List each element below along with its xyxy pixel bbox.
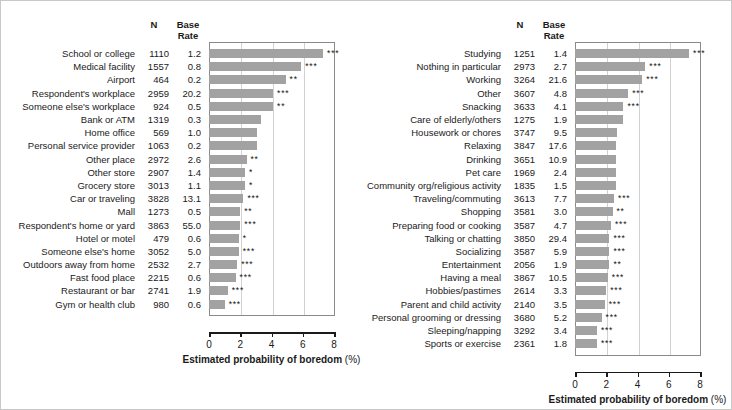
x-axis-tick-label: 4 xyxy=(260,339,284,350)
category-label: Home office xyxy=(1,127,135,138)
category-label: Respondent's workplace xyxy=(1,88,135,99)
base-rate-value: 2.4 xyxy=(537,167,567,178)
bar-row: Respondent's workplace295920.2*** xyxy=(1,87,367,100)
bar-row: Grocery store30131.1* xyxy=(1,179,367,192)
significance-marker: *** xyxy=(693,48,705,59)
bar-zone: ** xyxy=(209,73,367,86)
category-label: Outdoors away from home xyxy=(1,259,135,270)
bar xyxy=(575,102,623,111)
base-rate-value: 5.2 xyxy=(537,312,567,323)
bar xyxy=(209,102,273,111)
bar-row: Relaxing384717.6 xyxy=(367,139,732,152)
sample-size-value: 479 xyxy=(137,233,169,244)
bar xyxy=(209,194,243,203)
bar xyxy=(209,273,236,282)
x-axis-tick xyxy=(700,372,702,377)
x-axis-title-unit: (%) xyxy=(345,354,361,365)
bar-zone: ** xyxy=(209,153,367,166)
sample-size-value: 1319 xyxy=(137,114,169,125)
significance-marker: *** xyxy=(247,193,259,204)
bar xyxy=(209,234,239,243)
x-axis-tick xyxy=(303,332,305,337)
chart-panel-right: N Base Rate Studying12511.4***Nothing in… xyxy=(367,1,732,410)
bar-zone: *** xyxy=(209,87,367,100)
x-axis-title-text: Estimated probability of boredom xyxy=(183,354,345,365)
bar-row: Other36074.8*** xyxy=(367,87,732,100)
bar-row: Personal grooming or dressing36805.2*** xyxy=(367,311,732,324)
base-rate-value: 1.9 xyxy=(171,285,201,296)
bar xyxy=(575,313,602,322)
x-axis-title-right: Estimated probability of boredom (%) xyxy=(455,394,732,405)
base-rate-value: 4.1 xyxy=(537,101,567,112)
bar-row: Outdoors away from home25322.7*** xyxy=(1,258,367,271)
bar xyxy=(575,89,628,98)
base-rate-value: 0.6 xyxy=(171,233,201,244)
x-axis-tick-label: 0 xyxy=(197,339,221,350)
bar-zone xyxy=(575,179,732,192)
bar xyxy=(209,168,245,177)
sample-size-value: 3581 xyxy=(503,206,535,217)
bar xyxy=(209,247,239,256)
base-rate-value: 0.8 xyxy=(171,61,201,72)
bar-zone: *** xyxy=(209,192,367,205)
x-axis-tick xyxy=(669,372,671,377)
category-label: Personal grooming or dressing xyxy=(367,312,501,323)
sample-size-value: 3292 xyxy=(503,325,535,336)
bar-row: Preparing food or cooking35874.7*** xyxy=(367,218,732,231)
bar xyxy=(575,181,616,190)
bar-row: Working326421.6*** xyxy=(367,73,732,86)
bar-zone: *** xyxy=(575,100,732,113)
bar-row: Someone else's workplace9240.5** xyxy=(1,100,367,113)
bar-row: Respondent's home or yard386355.0*** xyxy=(1,218,367,231)
base-rate-value: 1.2 xyxy=(171,48,201,59)
category-label: Other xyxy=(367,88,501,99)
bar-zone xyxy=(575,139,732,152)
base-rate-value: 0.5 xyxy=(171,206,201,217)
sample-size-value: 3680 xyxy=(503,312,535,323)
category-label: Hobbies/pastimes xyxy=(367,285,501,296)
significance-marker: ** xyxy=(290,74,298,85)
significance-marker: *** xyxy=(612,272,624,283)
sample-size-value: 1273 xyxy=(137,206,169,217)
bar-row: Airport4640.2** xyxy=(1,73,367,86)
category-label: Studying xyxy=(367,48,501,59)
sample-size-value: 1251 xyxy=(503,48,535,59)
bar-row: Studying12511.4*** xyxy=(367,47,732,60)
sample-size-value: 2140 xyxy=(503,299,535,310)
sample-size-value: 3013 xyxy=(137,180,169,191)
bar-zone: *** xyxy=(575,311,732,324)
bar-row: Shopping35813.0** xyxy=(367,205,732,218)
bar xyxy=(209,115,261,124)
base-rate-value: 3.5 xyxy=(537,299,567,310)
x-axis-tick-label: 6 xyxy=(657,379,681,390)
sample-size-value: 3587 xyxy=(503,220,535,231)
bar xyxy=(575,286,606,295)
sample-size-value: 2741 xyxy=(137,285,169,296)
bar-zone xyxy=(575,126,732,139)
significance-marker: *** xyxy=(241,259,253,270)
base-rate-value: 0.3 xyxy=(171,114,201,125)
category-label: Grocery store xyxy=(1,180,135,191)
bar-row: Car or traveling382813.1*** xyxy=(1,192,367,205)
sample-size-value: 980 xyxy=(137,299,169,310)
sample-size-value: 2532 xyxy=(137,259,169,270)
category-label: Hotel or motel xyxy=(1,233,135,244)
bar-zone xyxy=(209,126,367,139)
bar-zone: *** xyxy=(575,271,732,284)
bar-zone: *** xyxy=(575,192,732,205)
bar xyxy=(575,273,608,282)
category-label: Someone else's workplace xyxy=(1,101,135,112)
base-rate-value: 2.7 xyxy=(171,259,201,270)
bar xyxy=(575,155,616,164)
x-axis-tick-label: 6 xyxy=(291,339,315,350)
significance-marker: ** xyxy=(244,206,252,217)
sample-size-value: 2056 xyxy=(503,259,535,270)
x-axis-tick xyxy=(240,332,242,337)
sample-size-value: 3863 xyxy=(137,220,169,231)
category-label: Talking or chatting xyxy=(367,233,501,244)
category-label: Restaurant or bar xyxy=(1,285,135,296)
bar-zone xyxy=(575,153,732,166)
base-rate-value: 21.6 xyxy=(537,74,567,85)
sample-size-value: 2614 xyxy=(503,285,535,296)
bar-zone: *** xyxy=(209,60,367,73)
